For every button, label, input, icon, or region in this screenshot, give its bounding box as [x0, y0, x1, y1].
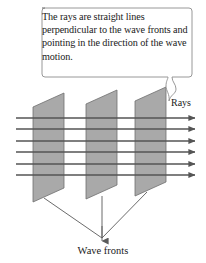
- label-wave-fronts: Wave fronts: [0, 245, 206, 256]
- label-rays: Rays: [171, 97, 191, 108]
- leader-line-group: [44, 192, 147, 241]
- wave-front-plane-2: [86, 90, 117, 199]
- leader-line-1: [44, 198, 102, 238]
- callout-text: The rays are straight lines perpendicula…: [42, 10, 193, 63]
- wave-front-plane-1: [33, 93, 64, 202]
- leader-line-3: [102, 192, 147, 238]
- wave-fronts-figure: The rays are straight lines perpendicula…: [0, 0, 206, 263]
